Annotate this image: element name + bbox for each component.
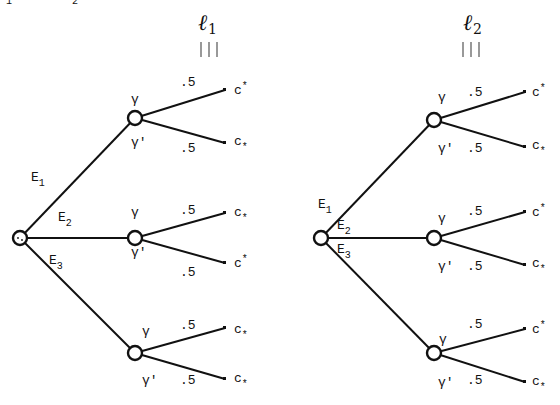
prob-lower: .5 xyxy=(467,141,483,156)
prob-lower: .5 xyxy=(180,373,196,388)
outcome-c-sup-star: c* xyxy=(532,320,546,337)
event-label-e2: E2 xyxy=(337,218,351,237)
prob-lower: .5 xyxy=(467,259,483,274)
prob-lower: .5 xyxy=(180,141,196,156)
edge-e3 xyxy=(20,238,135,353)
outcome-c-sub-star: c* xyxy=(234,322,248,341)
state-gamma-prime: γ' xyxy=(438,375,454,390)
event-label-e3: E3 xyxy=(337,242,351,261)
cropped-subscript-2: 2 xyxy=(72,0,78,7)
cropped-header-text: 1 2 xyxy=(6,0,78,7)
outcome-c-sub-star: c* xyxy=(532,256,546,275)
outcome-c-sup-star: c* xyxy=(234,254,248,271)
chance-node xyxy=(128,346,142,360)
prob-upper: .5 xyxy=(180,203,196,218)
state-gamma: γ xyxy=(131,92,139,107)
tree-l1-title: ℓ xyxy=(198,10,208,35)
tree-l2: ℓ 2 E1 E2 E3 γ γ' .5 .5 c* c* xyxy=(314,10,546,393)
event-label-e1: E1 xyxy=(31,170,45,189)
chance-branch-2: γ γ' .5 .5 c* c* xyxy=(427,203,546,275)
prob-upper: .5 xyxy=(467,85,483,100)
decision-root-node xyxy=(314,231,328,245)
prob-lower: .5 xyxy=(180,265,196,280)
root-node-dot xyxy=(21,239,23,241)
chance-node xyxy=(427,231,441,245)
chance-node xyxy=(128,231,142,245)
chance-branch-1: γ γ' .5 .5 c* c* xyxy=(427,83,546,157)
chance-branch-1: γ γ' .5 .5 c* c* xyxy=(128,75,248,156)
decision-root-node xyxy=(13,231,27,245)
prob-upper: .5 xyxy=(467,204,483,219)
tree-l1-equivalence-symbol xyxy=(201,42,217,57)
outcome-c-sub-star: c* xyxy=(532,374,546,393)
state-gamma: γ xyxy=(438,211,446,226)
chance-branch-3: γ γ' .5 .5 c* c* xyxy=(427,317,546,393)
chance-branch-2: γ γ' .5 .5 c* c* xyxy=(128,203,248,280)
state-gamma: γ xyxy=(131,205,139,220)
prob-upper: .5 xyxy=(180,75,196,90)
state-gamma-prime: γ' xyxy=(438,141,454,156)
chance-node xyxy=(128,111,142,125)
state-gamma-prime: γ' xyxy=(131,135,147,150)
outcome-c-sup-star: c* xyxy=(532,83,546,100)
state-gamma-prime: γ' xyxy=(131,245,147,260)
prob-lower: .5 xyxy=(467,373,483,388)
event-label-e1: E1 xyxy=(318,197,332,216)
state-gamma: γ xyxy=(438,90,446,105)
event-label-e2: E2 xyxy=(58,210,72,229)
state-gamma: γ xyxy=(142,324,150,339)
prob-upper: .5 xyxy=(467,317,483,332)
chance-node xyxy=(427,113,441,127)
outcome-c-sup-star: c* xyxy=(532,203,546,220)
outcome-c-sub-star: c* xyxy=(532,138,546,157)
tree-l2-equivalence-symbol xyxy=(463,42,479,57)
root-node-dot xyxy=(17,237,19,239)
cropped-subscript-1: 1 xyxy=(6,0,12,7)
outcome-c-sub-star: c* xyxy=(234,134,248,153)
tree-l1-title-subscript: 1 xyxy=(208,21,217,37)
outcome-c-sub-star: c* xyxy=(234,205,248,224)
decision-tree-diagram: 1 2 ℓ 1 E1 E2 E3 γ γ' .5 .5 c xyxy=(0,0,560,405)
prob-upper: .5 xyxy=(180,318,196,333)
tree-l2-title-subscript: 2 xyxy=(473,21,482,37)
chance-branch-3: γ γ' .5 .5 c* c* xyxy=(128,318,248,390)
outcome-c-sup-star: c* xyxy=(234,81,248,98)
state-gamma: γ xyxy=(439,332,447,347)
tree-l2-title: ℓ xyxy=(463,10,473,35)
chance-node xyxy=(427,346,441,360)
outcome-c-sub-star: c* xyxy=(234,371,248,390)
state-gamma-prime: γ' xyxy=(438,259,454,274)
tree-l1: ℓ 1 E1 E2 E3 γ γ' .5 .5 c* c* xyxy=(13,10,248,390)
state-gamma-prime: γ' xyxy=(142,373,158,388)
